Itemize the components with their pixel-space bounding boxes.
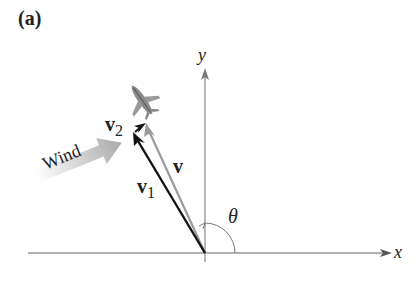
v-label: v: [173, 156, 183, 176]
x-axis: [28, 249, 392, 257]
x-axis-label: x: [394, 243, 402, 261]
angle-theta-label: θ: [228, 206, 238, 226]
vector-v2: [134, 123, 146, 133]
y-axis: [201, 68, 209, 262]
v2-label: v2: [105, 114, 123, 134]
y-axis-label: y: [198, 46, 206, 64]
v1-label: v1: [137, 176, 155, 196]
panel-label: (a): [18, 8, 41, 28]
angle-arc: [205, 223, 235, 253]
airplane-icon: [119, 77, 166, 125]
vector-diagram: [0, 0, 420, 282]
